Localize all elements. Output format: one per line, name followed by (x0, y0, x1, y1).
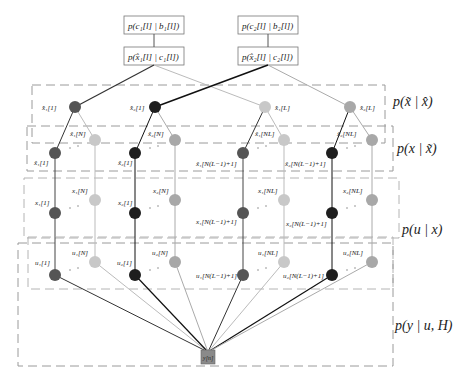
node-grid (49, 134, 378, 281)
label-x1-1: x₁[1] (34, 199, 50, 207)
label-u2-NL: u₂[NL] (343, 249, 363, 257)
factor-x1hat-label: p(x̂₁[l] | c₁[l]) (127, 52, 179, 62)
factor-c1-label: p(c₁[l] | b₁[l]) (127, 21, 179, 31)
label-x2-1: x₂[1] (117, 199, 133, 207)
label-x1tilde-1: x̃₁[1] (33, 159, 49, 167)
label-x2-N: x₂[N] (152, 187, 169, 195)
factor-label-y-given-uH: p(y | u, H) (394, 318, 453, 334)
label-x2tilde-N: x̃₂[N] (147, 130, 164, 138)
label-u1-NL: u₁[NL] (258, 249, 278, 257)
node-x2hat-L (344, 101, 356, 113)
factor-label-x-given-xtilde: p(x | x̃) (396, 141, 437, 157)
label-y-n: y[n] (202, 355, 214, 362)
factor-x2hat-label: p(x̂₂[l] | c₂[l]) (241, 52, 293, 62)
label-u1-NL1: u₁[N(L−1)+1] (196, 272, 237, 280)
label-x2tilde-1: x̃₂[1] (117, 159, 133, 167)
label-x1hat-L: x̂₁[L] (274, 104, 290, 112)
node-x1hat-1 (69, 101, 81, 113)
label-x2-NL1: x₂[N(L−1)+1] (285, 220, 327, 228)
label-x1-NL: x₁[NL] (257, 187, 278, 195)
label-x1hat-1: x̂₁[1] (41, 104, 57, 112)
label-x2hat-L: x̂₂[L] (359, 104, 375, 112)
factor-c2-label: p(c₂[l] | b₂[l]) (241, 21, 293, 31)
label-u2-1: u₂[1] (117, 259, 132, 267)
node-x1hat-L (259, 101, 271, 113)
factor-label-xtilde-given-xhat: p(x̃ | x̂) (392, 94, 433, 110)
layer-box-u (28, 237, 393, 289)
label-u2-N: u₂[N] (152, 249, 168, 257)
label-u1-N: u₁[N] (72, 249, 88, 257)
label-x1tilde-N: x̃₁[N] (69, 130, 86, 138)
label-x1-NL1: x₁[N(L−1)+1] (195, 218, 237, 226)
label-x2-NL: x₂[NL] (342, 187, 363, 195)
label-u1-1: u₁[1] (35, 259, 50, 267)
label-x1tilde-NL: x̃₁[NL] (254, 130, 275, 138)
node-x2hat-1 (149, 101, 161, 113)
factor-graph-diagram: p(c₁[l] | b₁[l]) p(c₂[l] | b₂[l]) p(x̂₁[… (0, 0, 459, 385)
label-x2tilde-NL1: x̃₂[N(L−1)+1] (284, 160, 326, 168)
layer-box-y (18, 243, 393, 366)
label-x1tilde-NL1: x̃₁[N(L−1)+1] (195, 160, 237, 168)
label-u2-NL1: u₂[N(L−1)+1] (283, 272, 324, 280)
label-x1-N: x₁[N] (71, 187, 88, 195)
factor-label-u-given-x: p(u | x) (401, 222, 443, 238)
label-x2hat-1: x̂₂[1] (129, 104, 145, 112)
label-x2tilde-NL: x̃₂[NL] (336, 130, 357, 138)
